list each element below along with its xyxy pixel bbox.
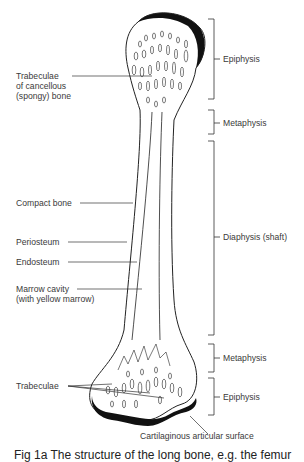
articular-cartilage-bottom <box>92 396 197 426</box>
trabeculae-bottom <box>106 344 182 408</box>
articular-cartilage-top <box>138 13 205 68</box>
region-brackets <box>208 19 220 415</box>
trabeculae-top <box>132 31 188 107</box>
endosteum-line <box>132 112 152 340</box>
label-trabeculae: Trabeculae <box>16 381 59 391</box>
label-metaphysis-bottom: Metaphysis <box>223 353 266 363</box>
label-metaphysis-top: Metaphysis <box>223 118 266 128</box>
label-periosteum: Periosteum <box>16 237 59 247</box>
label-cartilaginous-surface: Cartilaginous articular surface <box>140 431 254 441</box>
bone-outline <box>90 13 205 420</box>
label-diaphysis: Diaphysis (shaft) <box>223 232 287 242</box>
label-trabeculae-cancellous: Trabeculae of cancellous (spongy) bone <box>16 71 71 101</box>
label-epiphysis-top: Epiphysis <box>223 54 260 64</box>
label-endosteum: Endosteum <box>16 257 59 267</box>
label-line: of cancellous <box>16 81 71 91</box>
inner-wall-line <box>159 112 162 340</box>
figure-caption: Fig 1a The structure of the long bone, e… <box>14 448 291 462</box>
label-line: (with yellow marrow) <box>16 294 94 304</box>
label-line: Trabeculae <box>16 71 71 81</box>
label-line: (spongy) bone <box>16 91 71 101</box>
label-compact-bone: Compact bone <box>16 198 72 208</box>
label-line: Marrow cavity <box>16 284 94 294</box>
leader-lines <box>68 76 208 434</box>
label-marrow-cavity: Marrow cavity (with yellow marrow) <box>16 284 94 304</box>
label-epiphysis-bottom: Epiphysis <box>223 392 260 402</box>
